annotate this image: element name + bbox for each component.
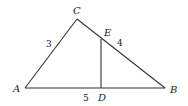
length-label-ab: 5 — [83, 93, 89, 103]
triangle-diagram: C A B D E 3 4 5 — [0, 0, 188, 106]
point-label-a: A — [12, 83, 20, 94]
length-label-ac: 3 — [46, 39, 52, 49]
point-label-b: B — [169, 84, 177, 95]
point-label-e: E — [103, 27, 112, 38]
length-label-eb: 4 — [117, 38, 123, 48]
segment-cb — [77, 19, 165, 88]
point-label-d: D — [97, 92, 106, 103]
segment-ac — [25, 19, 77, 88]
point-label-c: C — [73, 5, 81, 16]
